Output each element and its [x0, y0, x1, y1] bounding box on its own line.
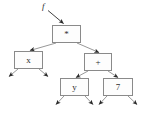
edge-plus-to-seven	[108, 71, 118, 78]
tree-node-x-label: x	[26, 56, 31, 65]
tree-node-seven[interactable]: 7	[103, 78, 133, 96]
tree-node-root[interactable]: *	[52, 25, 81, 43]
null-pointer-seven-right	[128, 96, 137, 105]
pointer-arrow-f	[48, 11, 64, 24]
tree-node-y-label: y	[72, 83, 77, 92]
edge-root-to-x	[30, 43, 56, 51]
tree-node-plus-label: +	[95, 58, 100, 67]
tree-node-root-label: *	[64, 30, 69, 39]
edge-plus-to-y	[76, 71, 88, 78]
expression-tree-diagram: f * x + y 7	[0, 0, 146, 115]
tree-node-plus[interactable]: +	[84, 53, 112, 71]
null-pointer-seven-left	[99, 96, 107, 105]
tree-node-x[interactable]: x	[14, 51, 43, 69]
null-pointer-x-right	[39, 69, 48, 77]
null-pointer-x-left	[9, 69, 18, 77]
tree-node-seven-label: 7	[116, 83, 121, 92]
null-pointer-y-left	[56, 96, 64, 105]
edge-root-to-plus	[77, 43, 99, 53]
pointer-label-f: f	[42, 2, 45, 11]
tree-node-y[interactable]: y	[60, 78, 89, 96]
null-pointer-y-right	[85, 96, 93, 105]
